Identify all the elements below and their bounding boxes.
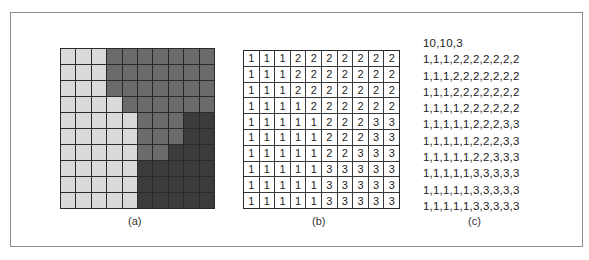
listing-row: 1,1,1,2,2,2,2,2,2,2 [423, 84, 520, 100]
value-cell: 2 [338, 130, 353, 145]
shaded-cell [138, 113, 152, 128]
shaded-cell [169, 65, 183, 80]
shaded-cell [61, 177, 75, 192]
value-cell: 2 [338, 51, 353, 66]
shaded-cell [61, 113, 75, 128]
value-cell: 2 [322, 98, 337, 113]
value-cell: 1 [260, 114, 275, 129]
value-cell: 1 [291, 130, 306, 145]
value-cell: 1 [306, 177, 321, 192]
shaded-cell [61, 49, 75, 64]
value-cell: 3 [353, 162, 368, 177]
shaded-cell [107, 193, 121, 208]
shaded-cell [138, 65, 152, 80]
value-cell: 2 [338, 114, 353, 129]
shaded-cell [123, 81, 137, 96]
value-cell: 1 [260, 177, 275, 192]
shaded-cell [153, 193, 167, 208]
shaded-cell [153, 161, 167, 176]
shaded-cell [169, 129, 183, 144]
value-cell: 3 [384, 114, 399, 129]
shaded-cell [153, 97, 167, 112]
value-cell: 3 [338, 193, 353, 208]
value-cell: 1 [275, 130, 290, 145]
value-cell: 1 [306, 130, 321, 145]
value-cell: 3 [353, 193, 368, 208]
shaded-cell [153, 129, 167, 144]
shaded-cell [138, 129, 152, 144]
value-cell: 1 [291, 162, 306, 177]
shaded-cell [123, 97, 137, 112]
shaded-cell [76, 177, 90, 192]
value-cell: 3 [353, 177, 368, 192]
shaded-cell [61, 161, 75, 176]
shaded-cell [123, 65, 137, 80]
value-cell: 2 [291, 51, 306, 66]
shaded-cell [153, 177, 167, 192]
shaded-cell [200, 161, 214, 176]
value-cell: 2 [369, 98, 384, 113]
value-cell: 2 [353, 114, 368, 129]
value-cell: 1 [260, 98, 275, 113]
shaded-cell [107, 145, 121, 160]
value-cell: 2 [353, 83, 368, 98]
shaded-cell [92, 113, 106, 128]
shaded-cell [200, 129, 214, 144]
shaded-cell [92, 177, 106, 192]
value-cell: 2 [369, 51, 384, 66]
value-cell: 3 [369, 177, 384, 192]
value-cell: 2 [322, 51, 337, 66]
shaded-cell [76, 113, 90, 128]
shaded-cell [123, 113, 137, 128]
shaded-cell [107, 97, 121, 112]
shaded-cell [169, 177, 183, 192]
shaded-cell [184, 49, 198, 64]
value-cell: 1 [260, 83, 275, 98]
value-cell: 3 [322, 193, 337, 208]
value-cell: 3 [369, 193, 384, 208]
value-cell: 3 [384, 146, 399, 161]
value-cell: 1 [244, 130, 259, 145]
shaded-cell [184, 145, 198, 160]
value-cell: 1 [244, 114, 259, 129]
shaded-cell [138, 193, 152, 208]
value-cell: 1 [260, 162, 275, 177]
value-cell: 1 [260, 51, 275, 66]
value-cell: 2 [322, 130, 337, 145]
value-cell: 1 [244, 193, 259, 208]
shaded-cell [76, 65, 90, 80]
value-cell: 1 [291, 114, 306, 129]
value-cell: 1 [275, 51, 290, 66]
value-cell: 1 [260, 130, 275, 145]
shaded-cell [169, 161, 183, 176]
shaded-cell [107, 161, 121, 176]
shaded-cell [153, 49, 167, 64]
value-cell: 1 [244, 51, 259, 66]
shaded-cell [153, 145, 167, 160]
value-cell: 1 [275, 146, 290, 161]
shaded-cell [184, 113, 198, 128]
shaded-cell [92, 97, 106, 112]
value-cell: 2 [291, 83, 306, 98]
listing-row: 1,1,1,1,1,2,2,2,3,3 [423, 116, 520, 132]
value-cell: 3 [384, 177, 399, 192]
value-cell: 1 [291, 146, 306, 161]
value-cell: 1 [244, 177, 259, 192]
value-cell: 1 [260, 146, 275, 161]
value-cell: 2 [384, 51, 399, 66]
shaded-cell [61, 129, 75, 144]
shaded-cell [200, 193, 214, 208]
value-cell: 2 [384, 98, 399, 113]
shaded-cell [200, 145, 214, 160]
value-cell: 3 [322, 177, 337, 192]
value-cell: 2 [338, 146, 353, 161]
shaded-cell [153, 81, 167, 96]
value-cell: 3 [338, 177, 353, 192]
value-cell: 2 [338, 83, 353, 98]
shaded-cell [184, 97, 198, 112]
value-cell: 1 [244, 67, 259, 82]
value-cell: 2 [322, 83, 337, 98]
value-cell: 1 [275, 114, 290, 129]
shaded-cell [61, 81, 75, 96]
shaded-cell [169, 49, 183, 64]
